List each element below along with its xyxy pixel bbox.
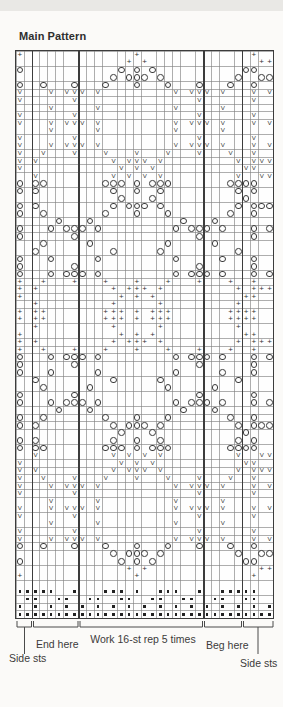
dot-symbol bbox=[180, 595, 188, 603]
plus-symbol: + bbox=[242, 293, 250, 301]
circle-symbol bbox=[71, 232, 79, 240]
circle-symbol bbox=[86, 217, 94, 225]
circle-symbol bbox=[188, 225, 196, 233]
circle-symbol bbox=[156, 180, 164, 188]
circle-symbol bbox=[55, 406, 63, 414]
v-symbol: V bbox=[47, 104, 55, 112]
circle-symbol bbox=[203, 270, 211, 278]
dot-symbol bbox=[188, 595, 196, 603]
circle-symbol bbox=[102, 542, 110, 550]
dot-symbol bbox=[133, 610, 141, 618]
circle-symbol bbox=[110, 550, 118, 558]
v-symbol: V bbox=[141, 467, 149, 475]
dot-symbol bbox=[266, 603, 274, 611]
circle-symbol bbox=[195, 391, 203, 399]
dot-symbol bbox=[164, 610, 172, 618]
circle-symbol bbox=[133, 180, 141, 188]
circle-symbol bbox=[211, 240, 219, 248]
v-symbol: V bbox=[94, 520, 102, 528]
plus-symbol: + bbox=[16, 573, 24, 581]
circle-symbol bbox=[63, 399, 71, 407]
dot-symbol bbox=[219, 610, 227, 618]
circle-symbol bbox=[258, 74, 266, 82]
circle-symbol bbox=[156, 437, 164, 445]
knitting-chart-grid: +++++++VVVVVVVVVVVVVVVVVVVVVVVVVVVVVVVVV… bbox=[16, 51, 273, 618]
circle-symbol bbox=[32, 202, 40, 210]
circle-symbol bbox=[164, 414, 172, 422]
v-symbol: V bbox=[71, 512, 79, 520]
circle-symbol bbox=[78, 225, 86, 233]
circle-symbol bbox=[47, 399, 55, 407]
circle-symbol bbox=[164, 240, 172, 248]
circle-symbol bbox=[110, 74, 118, 82]
v-symbol: V bbox=[94, 142, 102, 150]
circle-symbol bbox=[266, 270, 274, 278]
beg-here-label: Beg here bbox=[206, 639, 249, 651]
chart-title: Main Pattern bbox=[19, 30, 86, 42]
v-symbol: V bbox=[47, 127, 55, 135]
circle-symbol bbox=[16, 210, 24, 218]
v-symbol: V bbox=[156, 157, 164, 165]
side-sts-left-bracket bbox=[17, 621, 32, 654]
v-symbol: V bbox=[110, 172, 118, 180]
circle-symbol bbox=[234, 74, 242, 82]
circle-symbol bbox=[63, 225, 71, 233]
dot-symbol bbox=[242, 588, 250, 596]
v-symbol: V bbox=[63, 505, 71, 513]
v-symbol: V bbox=[78, 535, 86, 543]
dot-symbol bbox=[156, 595, 164, 603]
v-symbol: V bbox=[94, 104, 102, 112]
v-symbol: V bbox=[39, 474, 47, 482]
circle-symbol bbox=[133, 81, 141, 89]
plus-symbol: + bbox=[266, 565, 274, 573]
v-symbol: V bbox=[250, 474, 258, 482]
circle-symbol bbox=[16, 414, 24, 422]
v-symbol: V bbox=[172, 142, 180, 150]
plus-symbol: + bbox=[16, 316, 24, 324]
v-symbol: V bbox=[110, 467, 118, 475]
v-symbol: V bbox=[195, 489, 203, 497]
dot-symbol bbox=[16, 610, 24, 618]
plus-symbol: + bbox=[258, 285, 266, 293]
circle-symbol bbox=[250, 255, 258, 263]
v-symbol: V bbox=[32, 157, 40, 165]
circle-symbol bbox=[16, 444, 24, 452]
v-symbol: V bbox=[172, 127, 180, 135]
plus-symbol: + bbox=[149, 331, 157, 339]
circle-symbol bbox=[133, 421, 141, 429]
v-symbol: V bbox=[71, 489, 79, 497]
plus-symbol: + bbox=[258, 565, 266, 573]
circle-symbol bbox=[164, 542, 172, 550]
dot-symbol bbox=[24, 610, 32, 618]
plus-symbol: + bbox=[149, 316, 157, 324]
circle-symbol bbox=[195, 225, 203, 233]
circle-symbol bbox=[71, 399, 79, 407]
circle-symbol bbox=[172, 270, 180, 278]
circle-symbol bbox=[195, 232, 203, 240]
v-symbol: V bbox=[156, 452, 164, 460]
v-symbol: V bbox=[16, 535, 24, 543]
v-symbol: V bbox=[172, 89, 180, 97]
v-symbol: V bbox=[258, 467, 266, 475]
v-symbol: V bbox=[94, 89, 102, 97]
circle-symbol bbox=[94, 255, 102, 263]
plus-symbol: + bbox=[117, 293, 125, 301]
v-symbol: V bbox=[219, 142, 227, 150]
circle-symbol bbox=[258, 202, 266, 210]
dot-symbol bbox=[110, 603, 118, 611]
circle-symbol bbox=[211, 384, 219, 392]
v-symbol: V bbox=[172, 505, 180, 513]
v-symbol: V bbox=[258, 172, 266, 180]
circle-symbol bbox=[195, 399, 203, 407]
circle-symbol bbox=[195, 263, 203, 271]
v-symbol: V bbox=[219, 127, 227, 135]
v-symbol: V bbox=[141, 172, 149, 180]
dot-symbol bbox=[94, 610, 102, 618]
v-symbol: V bbox=[250, 527, 258, 535]
plus-symbol: + bbox=[156, 338, 164, 346]
v-symbol: V bbox=[164, 474, 172, 482]
plus-symbol: + bbox=[102, 346, 110, 354]
dot-symbol bbox=[47, 603, 55, 611]
plus-symbol: + bbox=[32, 323, 40, 331]
circle-symbol bbox=[234, 437, 242, 445]
